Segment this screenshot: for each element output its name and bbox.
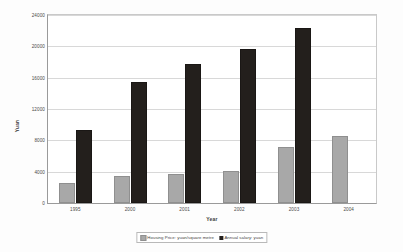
x-axis-tick-label: 1995	[70, 207, 81, 212]
bar-groups: 199520002001200220032004	[48, 15, 376, 203]
bar-2001-series-0[interactable]	[168, 174, 184, 203]
y-axis-tick-label: 16000	[32, 75, 45, 80]
bar-group: 2001	[157, 15, 212, 203]
bar-2003-series-1[interactable]	[295, 28, 311, 203]
bar-2001-series-1[interactable]	[185, 64, 201, 203]
y-axis-tick-label: 20000	[32, 44, 45, 49]
y-axis-title: Yuan	[15, 120, 20, 132]
y-axis-tick-label: 0	[42, 201, 45, 206]
bar-1995-series-0[interactable]	[59, 183, 75, 203]
bar-group: 2004	[321, 15, 376, 203]
y-axis-tick-label: 8000	[34, 138, 45, 143]
bar-2004-series-0[interactable]	[332, 136, 348, 203]
legend-swatch	[219, 236, 223, 240]
y-axis-tick-label: 12000	[32, 107, 45, 112]
x-axis-tick-label: 2004	[343, 207, 354, 212]
x-axis-title: Year	[47, 216, 377, 222]
bar-group: 2002	[212, 15, 267, 203]
bar-2002-series-0[interactable]	[223, 171, 239, 203]
bar-group: 2000	[103, 15, 158, 203]
legend-swatch	[140, 235, 146, 241]
x-axis-tick-label: 2002	[234, 207, 245, 212]
bar-group: 2003	[267, 15, 322, 203]
y-axis-tick-label: 24000	[32, 13, 45, 18]
legend-label: Housing Price: yuan/square metre	[147, 235, 214, 240]
chart-legend: Housing Price: yuan/square metreAnnual s…	[136, 232, 267, 243]
gridline: 0	[48, 203, 376, 204]
plot-area: 04000800012000160002000024000 1995200020…	[48, 15, 376, 203]
y-axis-tick-label: 4000	[34, 169, 45, 174]
x-axis-tick-label: 2003	[289, 207, 300, 212]
x-axis-tick-label: 2000	[125, 207, 136, 212]
bar-group: 1995	[48, 15, 103, 203]
legend-entry[interactable]: Annual salary: yuan	[219, 235, 263, 240]
bar-1995-series-1[interactable]	[76, 130, 92, 203]
bar-2002-series-1[interactable]	[240, 49, 256, 203]
legend-label: Annual salary: yuan	[224, 235, 263, 240]
chart-page: Yuan 04000800012000160002000024000 19952…	[0, 0, 403, 252]
chart-plot-frame: 04000800012000160002000024000 1995200020…	[47, 14, 377, 204]
bar-2003-series-0[interactable]	[278, 147, 294, 203]
legend-entry[interactable]: Housing Price: yuan/square metre	[140, 235, 214, 241]
bar-2000-series-0[interactable]	[114, 176, 130, 203]
x-axis-tick-label: 2001	[179, 207, 190, 212]
bar-2000-series-1[interactable]	[131, 82, 147, 203]
